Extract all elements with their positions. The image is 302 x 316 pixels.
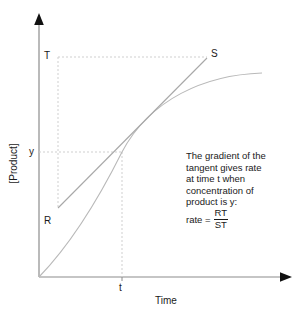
x-axis-arrowhead-icon bbox=[280, 272, 292, 282]
annotation-line-3: at time t when bbox=[186, 173, 292, 185]
rate-formula-numerator: RT bbox=[214, 208, 229, 219]
product-vs-time-figure: T S R y t Time [Product] The gradient of… bbox=[0, 0, 302, 316]
point-label-T: T bbox=[44, 51, 50, 61]
rate-formula-fraction: RT ST bbox=[214, 208, 229, 230]
tangent-explanation-annotation: The gradient of the tangent gives rate a… bbox=[186, 150, 292, 230]
rate-formula-denominator: ST bbox=[214, 220, 228, 230]
y-axis-tick-label-y: y bbox=[29, 147, 34, 157]
tangent-line bbox=[58, 58, 207, 208]
y-axis-arrowhead-icon bbox=[34, 13, 44, 25]
annotation-line-5: product is y: bbox=[186, 196, 292, 208]
rate-formula: rate = RT ST bbox=[186, 208, 292, 230]
annotation-line-2: tangent gives rate bbox=[186, 162, 292, 174]
y-axis-title: [Product] bbox=[8, 132, 19, 196]
annotation-line-4: concentration of bbox=[186, 185, 292, 197]
rate-formula-label: rate = bbox=[186, 214, 211, 226]
x-axis-title: Time bbox=[155, 295, 177, 306]
point-label-R: R bbox=[44, 216, 51, 226]
point-label-S: S bbox=[211, 49, 218, 59]
annotation-line-1: The gradient of the bbox=[186, 150, 292, 162]
x-axis-tick-label-t: t bbox=[119, 283, 122, 293]
